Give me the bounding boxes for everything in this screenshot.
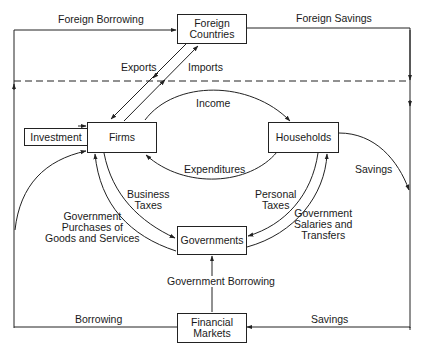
investment-box: Investment <box>24 128 87 146</box>
households-box: Households <box>268 122 339 153</box>
income-label: Income <box>196 98 230 109</box>
business-taxes-label: Business Taxes <box>127 189 170 211</box>
foreign-countries-box: Foreign Countries <box>177 14 247 44</box>
foreign-savings-label: Foreign Savings <box>296 13 372 24</box>
government-salaries-label: Government Salaries and Transfers <box>294 208 352 241</box>
exports-label: Exports <box>121 62 157 73</box>
foreign-countries-label-2: Countries <box>190 29 235 40</box>
governments-box: Governments <box>177 226 247 255</box>
government-purchases-line3: Goods and Services <box>45 233 140 244</box>
personal-taxes-label: Personal Taxes <box>255 189 296 211</box>
circular-flow-diagram: Foreign Countries Firms Investment House… <box>0 0 423 357</box>
government-purchases-label: Government Purchases of Goods and Servic… <box>45 211 140 244</box>
personal-taxes-line2: Taxes <box>255 200 296 211</box>
expenditures-label: Expenditures <box>184 164 245 175</box>
government-salaries-line3: Transfers <box>294 230 352 241</box>
household-savings-label: Savings <box>355 164 392 175</box>
firms-box: Firms <box>87 122 157 153</box>
foreign-borrowing-label: Foreign Borrowing <box>58 14 144 25</box>
financial-markets-label-2: Markets <box>193 328 230 339</box>
savings-bottom-label: Savings <box>311 314 348 325</box>
imports-label: Imports <box>188 62 223 73</box>
firms-label: Firms <box>109 132 135 143</box>
households-label: Households <box>276 132 331 143</box>
business-taxes-line2: Taxes <box>127 200 170 211</box>
borrowing-label: Borrowing <box>75 314 122 325</box>
flow-arrows <box>0 0 423 357</box>
governments-label: Governments <box>180 235 243 246</box>
government-borrowing-label: Government Borrowing <box>166 276 276 287</box>
investment-label: Investment <box>30 132 81 143</box>
financial-markets-box: Financial Markets <box>177 313 247 343</box>
